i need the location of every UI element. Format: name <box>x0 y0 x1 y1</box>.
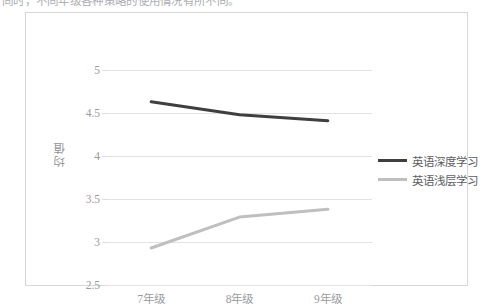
y-axis-tick-label: 3.5 <box>86 193 100 205</box>
legend-item[interactable]: 英语深度学习 <box>378 151 482 170</box>
y-axis-title: 均值 <box>52 141 68 167</box>
legend-color-swatch <box>378 178 407 181</box>
legend: 英语深度学习英语浅层学习 <box>378 151 482 189</box>
y-axis-tick-label: 3 <box>94 236 100 248</box>
y-axis-tick-label: 5 <box>94 64 100 76</box>
gridline <box>107 285 372 286</box>
y-axis-tick-label: 4 <box>94 150 100 162</box>
series-line <box>151 209 328 248</box>
legend-item[interactable]: 英语浅层学习 <box>378 170 482 189</box>
y-axis-tick-label: 4.5 <box>86 107 100 119</box>
caption-text: 同时，不同年级各种策略的使用情况有所不同。 <box>2 0 239 8</box>
x-axis-tick-label: 7年级 <box>137 290 165 306</box>
y-axis-tick-label: 2.5 <box>86 279 100 291</box>
legend-label: 英语深度学习 <box>412 153 478 169</box>
legend-label: 英语浅层学习 <box>412 172 478 188</box>
legend-color-swatch <box>378 159 407 162</box>
x-axis-tick-label: 8年级 <box>226 290 254 306</box>
x-axis-tick-label: 9年级 <box>314 290 342 306</box>
y-axis-tick-mark <box>102 285 107 286</box>
series-line <box>151 102 328 121</box>
chart-frame[interactable]: 均值 54.543.532.5 7年级8年级9年级 英语深度学习英语浅层学习 <box>25 12 468 286</box>
series-lines <box>107 70 372 285</box>
y-axis-tick-labels: 54.543.532.5 <box>70 70 100 285</box>
